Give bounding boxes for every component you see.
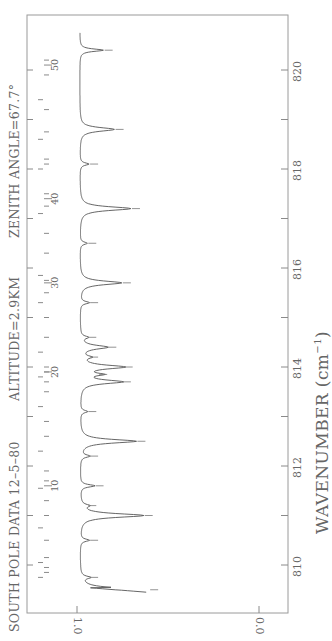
spectrum-chart: 1020304050 [0, 0, 332, 641]
y-tick-label: 0.0 [253, 617, 266, 635]
x-tick-label: 812 [291, 457, 304, 478]
x-tick-label: 810 [291, 556, 304, 577]
svg-text:50: 50 [49, 59, 60, 71]
title-text: SOUTH POLE DATA 12–5–80 [7, 441, 22, 632]
x-tick-label: 814 [291, 358, 304, 379]
svg-text:30: 30 [49, 277, 60, 289]
altitude-annotation: ALTITUDE=2.9KM [7, 277, 22, 401]
svg-text:40: 40 [49, 193, 60, 205]
wavenumber-ticks [27, 70, 288, 565]
y-tick-label: 1.0 [71, 617, 84, 635]
chart-title: SOUTH POLE DATA 12–5–80 [7, 441, 22, 632]
zenith-annotation: ZENITH ANGLE=67.7° [7, 84, 22, 238]
line-marker-labels: 1020304050 [44, 59, 60, 492]
plot-frame [27, 15, 288, 613]
x-tick-label: 820 [291, 61, 304, 82]
x-tick-label: 816 [291, 259, 304, 280]
svg-text:20: 20 [49, 366, 60, 378]
x-axis-label: WAVENUMBER (cm−1) [312, 331, 332, 534]
transmittance-ticks [77, 606, 259, 613]
svg-text:10: 10 [49, 480, 60, 492]
spectrum-trace [80, 33, 146, 592]
line-position-markers [38, 60, 49, 577]
x-tick-label: 818 [291, 160, 304, 181]
